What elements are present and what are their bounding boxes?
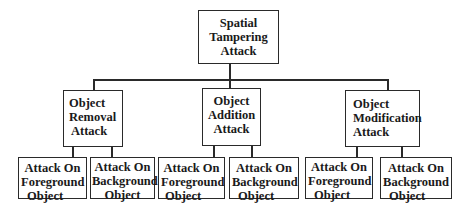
connector-modification-foreground — [356, 146, 358, 157]
node-label-line: Object — [69, 96, 117, 110]
node-spatial-tampering-attack: Spatial Tampering Attack — [198, 10, 279, 64]
node-label-line: Attack On — [92, 160, 153, 174]
node-modification-background-object: Attack On Background Object — [380, 157, 452, 199]
connector-addition-background — [251, 145, 253, 157]
node-label-line: Object — [353, 97, 414, 111]
node-label-line: Spatial — [204, 16, 273, 30]
node-label-line: Attack On — [308, 160, 370, 174]
node-label-line: Background — [92, 174, 153, 188]
connector-modification-background — [401, 146, 403, 157]
node-label-line: Foreground — [21, 175, 84, 189]
node-label-line: Attack — [204, 44, 273, 58]
node-label-line: Object — [208, 94, 255, 108]
node-label-line: Attack On — [21, 161, 84, 175]
node-label-line: Foreground — [161, 175, 222, 189]
node-removal-foreground-object: Attack On Foreground Object — [18, 157, 87, 199]
connector-removal-background — [111, 146, 113, 157]
node-label-line: Attack On — [232, 161, 296, 175]
connector-to-modification — [387, 79, 389, 90]
node-addition-foreground-object: Attack On Foreground Object — [158, 157, 225, 199]
node-label-line: Attack On — [383, 161, 449, 175]
node-label-line: Object — [232, 189, 296, 203]
connector-removal-foreground — [72, 146, 74, 157]
node-label-line: Background — [383, 175, 449, 189]
node-label-line: Background — [232, 175, 296, 189]
node-object-modification-attack: Object Modification Attack — [345, 90, 420, 147]
node-label-line: Modification — [353, 111, 414, 125]
node-label-line: Attack On — [161, 161, 222, 175]
node-object-removal-attack: Object Removal Attack — [63, 90, 123, 147]
node-label-line: Removal — [69, 110, 117, 124]
node-label-line: Foreground — [308, 174, 370, 188]
node-label-line: Attack — [353, 125, 414, 139]
connector-horizontal-bar — [93, 79, 389, 81]
node-label-line: Tampering — [204, 30, 273, 44]
node-object-addition-attack: Object Addition Attack — [202, 88, 261, 146]
node-label-line: Object — [308, 188, 370, 202]
node-label-line: Object — [21, 189, 84, 203]
node-label-line: Object — [92, 188, 153, 202]
connector-to-removal — [93, 79, 95, 90]
connector-addition-foreground — [213, 145, 215, 157]
node-label-line: Object — [161, 189, 222, 203]
node-removal-background-object: Attack On Background Object — [90, 157, 155, 199]
node-label-line: Attack — [69, 124, 117, 138]
node-label-line: Addition — [208, 108, 255, 122]
node-label-line: Attack — [208, 122, 255, 136]
node-modification-foreground-object: Attack On Foreground Object — [305, 157, 373, 199]
node-label-line: Object — [383, 189, 449, 203]
node-addition-background-object: Attack On Background Object — [229, 157, 299, 199]
